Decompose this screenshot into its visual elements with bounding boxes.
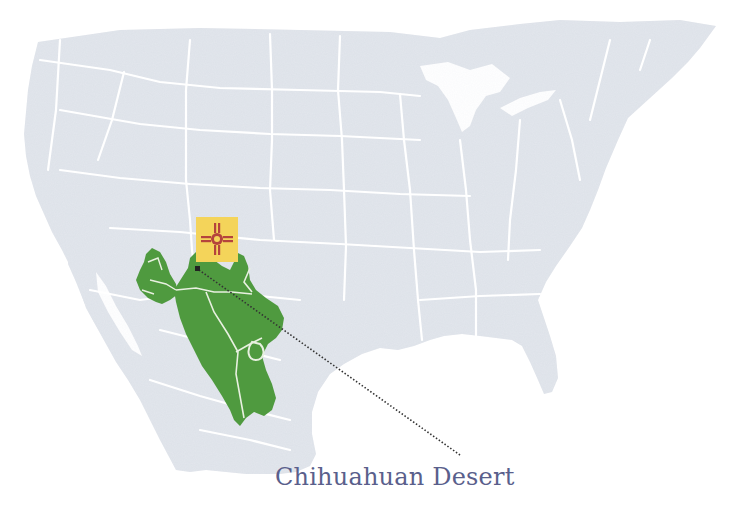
landmass xyxy=(24,20,716,474)
map-caption: Chihuahuan Desert xyxy=(275,463,515,491)
new-mexico-flag-marker xyxy=(196,217,238,262)
pointer-head-icon xyxy=(195,266,200,271)
map-canvas xyxy=(0,0,733,516)
north-america-land xyxy=(24,20,716,474)
